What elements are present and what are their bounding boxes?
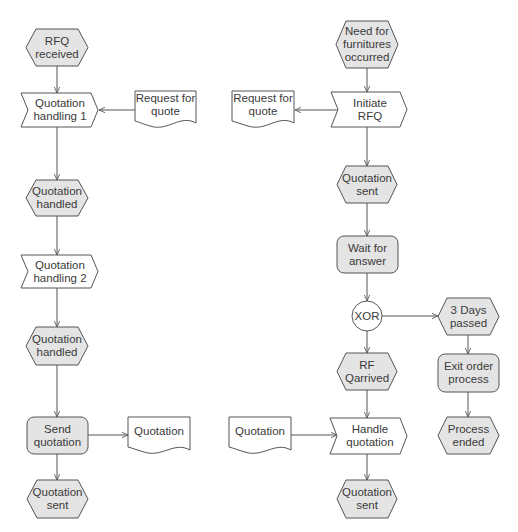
event-rf-qarrived[interactable] bbox=[337, 353, 397, 390]
function-quotation-handling-2[interactable] bbox=[21, 255, 98, 288]
event-process-ended[interactable] bbox=[438, 417, 499, 454]
function-quotation-handling-1[interactable] bbox=[21, 93, 98, 127]
diagram-canvas bbox=[0, 0, 518, 532]
document-quotation-right[interactable] bbox=[229, 417, 291, 453]
event-quotation-handled-1[interactable] bbox=[26, 180, 88, 216]
document-quotation-left[interactable] bbox=[128, 417, 190, 453]
gateway-xor[interactable] bbox=[352, 301, 382, 331]
event-quotation-handled-2[interactable] bbox=[26, 327, 88, 365]
function-exit-order-process[interactable] bbox=[438, 354, 499, 392]
event-rfq-received[interactable] bbox=[26, 29, 88, 66]
event-quotation-sent-left[interactable] bbox=[27, 480, 88, 518]
document-request-for-quote-right[interactable] bbox=[232, 91, 294, 127]
event-quotation-sent-right-end[interactable] bbox=[337, 480, 397, 518]
function-handle-quotation[interactable] bbox=[330, 418, 407, 454]
function-initiate-rfq[interactable] bbox=[331, 92, 407, 127]
event-quotation-sent-right[interactable] bbox=[337, 166, 397, 203]
event-3-days-passed[interactable] bbox=[438, 298, 499, 335]
function-send-quotation[interactable] bbox=[27, 417, 88, 454]
event-need-for-furnitures[interactable] bbox=[336, 21, 398, 68]
function-wait-for-answer[interactable] bbox=[337, 236, 398, 273]
document-request-for-quote-left[interactable] bbox=[135, 91, 196, 127]
